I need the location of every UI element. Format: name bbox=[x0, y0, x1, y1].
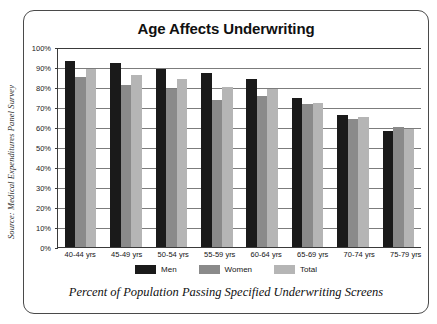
bar-total bbox=[222, 87, 233, 247]
legend-swatch-icon bbox=[274, 265, 295, 274]
y-axis-tick-label: 20% bbox=[36, 204, 51, 213]
bar-total bbox=[313, 103, 324, 247]
bar-women bbox=[302, 104, 313, 247]
bar-women bbox=[393, 127, 404, 247]
legend-item-men[interactable]: Men bbox=[135, 265, 177, 274]
bar-women bbox=[75, 77, 86, 247]
chart-title: Age Affects Underwriting bbox=[23, 20, 429, 37]
bar-women bbox=[257, 96, 268, 247]
bar-total bbox=[177, 79, 188, 247]
y-axis-tick-label: 90% bbox=[36, 64, 51, 73]
y-axis-tick-label: 50% bbox=[36, 144, 51, 153]
bar-men bbox=[110, 63, 121, 247]
bar-men bbox=[246, 79, 257, 247]
y-axis-tick-mark bbox=[55, 148, 59, 149]
legend-swatch-icon bbox=[135, 265, 156, 274]
y-axis-tick-mark bbox=[55, 68, 59, 69]
bar-men bbox=[383, 131, 394, 247]
bar-men bbox=[292, 98, 303, 247]
x-axis-tick-label: 75-79 yrs bbox=[383, 250, 430, 259]
bar-total bbox=[267, 89, 278, 247]
y-axis-tick-label: 80% bbox=[36, 84, 51, 93]
x-axis-labels: 40-44 yrs45-49 yrs50-54 yrs55-59 yrs60-6… bbox=[57, 250, 429, 259]
bar-men bbox=[337, 115, 348, 247]
x-axis-tick-label: 60-64 yrs bbox=[243, 250, 290, 259]
y-axis-tick-mark bbox=[55, 48, 59, 49]
x-axis-tick-label: 70-74 yrs bbox=[336, 250, 383, 259]
x-axis-tick-label: 45-49 yrs bbox=[104, 250, 151, 259]
bar-women bbox=[212, 100, 223, 247]
bar-women bbox=[348, 119, 359, 247]
y-axis-tick-label: 40% bbox=[36, 164, 51, 173]
y-axis-tick-label: 30% bbox=[36, 184, 51, 193]
bar-total bbox=[86, 69, 97, 247]
bar-men bbox=[201, 73, 212, 247]
legend-label: Total bbox=[300, 265, 317, 274]
bar-women bbox=[166, 89, 177, 247]
y-axis-tick-mark bbox=[55, 128, 59, 129]
chart-caption: Percent of Population Passing Specified … bbox=[23, 285, 429, 300]
y-axis: 100%90%80%70%60%50%40%30%20%10%0% bbox=[23, 48, 55, 248]
bar-women bbox=[121, 85, 132, 247]
x-axis-tick-label: 55-59 yrs bbox=[197, 250, 244, 259]
plot-area bbox=[57, 48, 421, 248]
x-axis-tick-label: 40-44 yrs bbox=[57, 250, 104, 259]
legend-item-women[interactable]: Women bbox=[199, 265, 252, 274]
bar-men bbox=[156, 69, 167, 247]
y-axis-tick-mark bbox=[55, 188, 59, 189]
x-axis-tick-label: 65-69 yrs bbox=[290, 250, 337, 259]
y-axis-tick-mark bbox=[55, 228, 59, 229]
legend-item-total[interactable]: Total bbox=[274, 265, 317, 274]
bar-total bbox=[358, 117, 369, 247]
y-axis-tick-label: 0% bbox=[40, 244, 51, 253]
y-axis-tick-mark bbox=[55, 108, 59, 109]
legend-label: Men bbox=[161, 265, 177, 274]
bar-men bbox=[65, 61, 76, 247]
bar-total bbox=[131, 75, 142, 247]
legend-label: Women bbox=[225, 265, 252, 274]
y-axis-tick-label: 70% bbox=[36, 104, 51, 113]
y-axis-tick-mark bbox=[55, 88, 59, 89]
x-axis-tick-label: 50-54 yrs bbox=[150, 250, 197, 259]
chart-figure: Source: Medical Expenditures Panel Surve… bbox=[0, 0, 437, 324]
y-axis-tick-label: 60% bbox=[36, 124, 51, 133]
gridline bbox=[58, 48, 421, 49]
y-axis-tick-label: 100% bbox=[32, 44, 51, 53]
y-axis-tick-mark bbox=[55, 168, 59, 169]
source-credit: Source: Medical Expenditures Panel Surve… bbox=[0, 0, 22, 324]
y-axis-tick-mark bbox=[55, 208, 59, 209]
source-credit-label: Source: Medical Expenditures Panel Surve… bbox=[6, 85, 16, 239]
legend-swatch-icon bbox=[199, 265, 220, 274]
y-axis-tick-mark bbox=[55, 248, 59, 249]
plot-wrapper: 100%90%80%70%60%50%40%30%20%10%0% bbox=[23, 48, 429, 248]
y-axis-tick-label: 10% bbox=[36, 224, 51, 233]
chart-legend: MenWomenTotal bbox=[23, 265, 429, 274]
bar-total bbox=[404, 129, 415, 247]
